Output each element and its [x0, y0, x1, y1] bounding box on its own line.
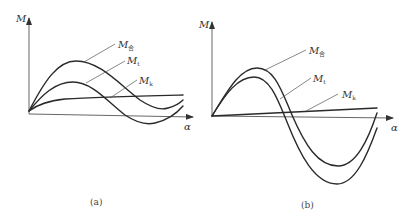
x-axis-a — [29, 114, 193, 117]
diagram-canvas: M α M合 Mt Mk (a) M α M合 Mt Mk (b) — [0, 0, 413, 223]
caption-b: (b) — [301, 200, 314, 210]
panel-a: M α M合 Mt Mk (a) — [15, 13, 193, 207]
y-axis-label-a: M — [15, 13, 27, 24]
panel-b: M α M合 Mt Mk (b) — [198, 19, 398, 210]
label-mhe-a: M合 — [117, 39, 134, 52]
leader-mk-b — [306, 94, 338, 111]
curve-mt-a — [29, 82, 183, 124]
caption-a: (a) — [90, 197, 102, 207]
label-mk-b: Mk — [341, 89, 356, 101]
leader-mk-a — [110, 80, 137, 98]
x-axis-label-a: α — [184, 121, 191, 132]
x-axis-b — [212, 116, 393, 118]
curve-mk-b — [212, 108, 377, 116]
leader-mt-b — [280, 78, 311, 99]
leader-mhe-a — [84, 44, 115, 62]
label-mhe-b: M合 — [308, 45, 325, 58]
label-mt-b: Mt — [312, 73, 326, 85]
y-axis-label-b: M — [198, 19, 210, 30]
leader-mhe-b — [265, 50, 306, 70]
curve-mhe-a — [29, 61, 183, 111]
x-axis-label-b: α — [391, 122, 398, 133]
label-mk-a: Mk — [138, 75, 153, 87]
label-mt-a: Mt — [126, 55, 140, 67]
